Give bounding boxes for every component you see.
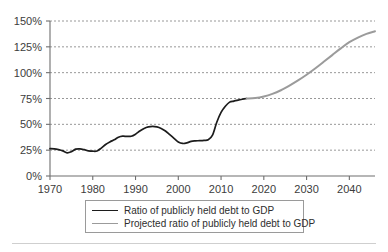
y-axis-tick-label: 50% (20, 118, 42, 130)
legend-swatch-projected-line (92, 223, 118, 224)
x-axis-tick-label: 2030 (294, 183, 318, 195)
y-axis (46, 21, 50, 176)
footer-divider (12, 243, 376, 244)
gridlines (50, 21, 375, 150)
legend-item-actual: Ratio of publicly held debt to GDP (92, 204, 297, 217)
y-axis-tick-label: 150% (14, 15, 42, 27)
x-axis-tick-label: 1990 (123, 183, 147, 195)
x-axis-tick-label: 2000 (166, 183, 190, 195)
chart-legend: Ratio of publicly held debt to GDP Proje… (85, 200, 304, 233)
legend-label-projected: Projected ratio of publicly held debt to… (124, 217, 315, 230)
x-axis-tick-label: 1970 (38, 183, 62, 195)
legend-label-actual: Ratio of publicly held debt to GDP (124, 204, 274, 217)
x-axis-tick-label: 2010 (209, 183, 233, 195)
x-axis-tick-label: 2040 (337, 183, 361, 195)
x-axis-tick-label: 2020 (252, 183, 276, 195)
y-axis-tick-label: 125% (14, 41, 42, 53)
x-axis-tick-label: 1980 (81, 183, 105, 195)
series-line-projected-debt (247, 31, 375, 98)
x-tick-labels: 19701980199020002010202020302040 (38, 183, 362, 195)
chart-figure: 0%25%50%75%100%125%150% 1970198019902000… (0, 0, 388, 252)
legend-swatch-actual-line (92, 210, 118, 211)
y-axis-tick-label: 0% (26, 170, 42, 182)
data-series (50, 31, 375, 153)
y-axis-tick-label: 75% (20, 93, 42, 105)
y-axis-tick-label: 25% (20, 144, 42, 156)
y-tick-labels: 0%25%50%75%100%125%150% (14, 15, 42, 182)
series-line-actual-debt (50, 99, 247, 153)
legend-item-projected: Projected ratio of publicly held debt to… (92, 217, 297, 230)
y-axis-tick-label: 100% (14, 67, 42, 79)
x-axis (50, 176, 375, 180)
